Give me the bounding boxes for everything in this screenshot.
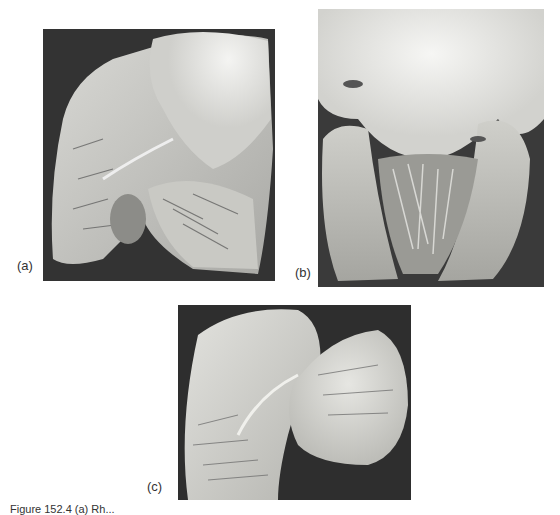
figure-caption: Figure 152.4 (a) Rh... [10,503,115,515]
figure-panel-a [43,29,275,281]
heart-specimen-image-a [43,29,275,281]
heart-specimen-image-c [178,305,411,500]
figure-panel-b [318,9,544,287]
figure-panel-c [178,305,411,500]
panel-label-b: (b) [295,265,311,280]
heart-specimen-image-b [318,9,544,287]
panel-label-c: (c) [147,479,162,494]
panel-label-a: (a) [17,258,33,273]
